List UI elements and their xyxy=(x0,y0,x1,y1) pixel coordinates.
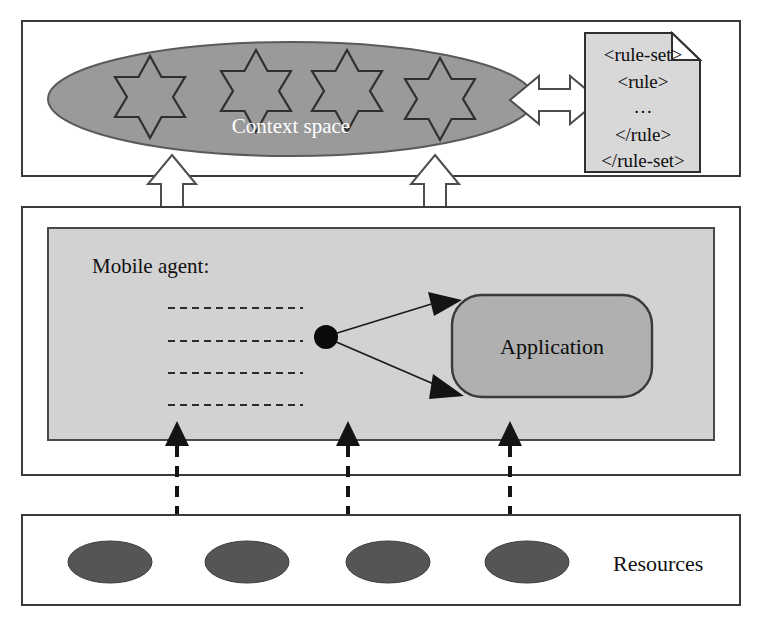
resource-ellipse-icon xyxy=(68,541,152,583)
agent-layer-panel: Mobile agent: Application xyxy=(22,207,740,475)
diagram-canvas: Context space Mobile agent: xyxy=(0,0,758,625)
document-line-3: </rule> xyxy=(615,124,671,145)
architecture-diagram: Context space Mobile agent: xyxy=(0,0,758,625)
resource-layer-panel: Resources xyxy=(22,515,740,605)
agent-node-dot xyxy=(314,325,338,349)
context-space-label: Context space xyxy=(232,114,350,138)
resource-ellipse-icon xyxy=(205,541,289,583)
document-line-4: </rule-set> xyxy=(601,150,685,171)
document-line-0: <rule-set> xyxy=(604,44,682,65)
application-label: Application xyxy=(500,334,604,359)
mobile-agent-label: Mobile agent: xyxy=(92,254,209,278)
resource-ellipse-icon xyxy=(346,541,430,583)
document-line-2: … xyxy=(634,96,653,117)
resource-ellipse-icon xyxy=(485,541,569,583)
document-line-1: <rule> xyxy=(618,71,669,92)
resources-label: Resources xyxy=(613,551,703,576)
